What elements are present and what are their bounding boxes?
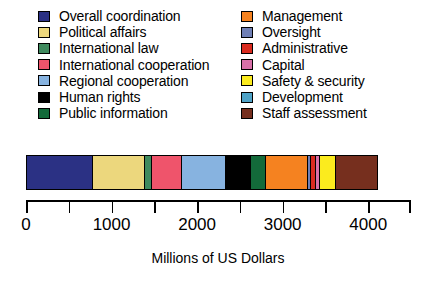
legend-item[interactable]: Regional cooperation (38, 73, 241, 89)
bar-segment[interactable] (251, 156, 266, 189)
legend-swatch-administrative (241, 43, 253, 54)
x-axis-tick-labels: 01000200030004000 (26, 215, 411, 237)
legend-item-label: Staff assessment (262, 106, 367, 120)
x-axis-tick-label: 1000 (93, 215, 131, 234)
legend-item[interactable]: Political affairs (38, 24, 241, 40)
bar-segment[interactable] (266, 156, 308, 189)
legend-swatch-staff-assessment (241, 108, 253, 119)
legend-swatch-human-rights (38, 92, 50, 103)
x-axis-tick-label: 0 (21, 215, 30, 234)
bar-segment[interactable] (152, 156, 182, 189)
x-axis-major-tick (112, 200, 114, 213)
legend-item-label: Public information (59, 106, 168, 120)
x-axis-tick-label: 4000 (349, 215, 387, 234)
x-axis-minor-tick (325, 200, 327, 213)
legend-item-label: Overall coordination (59, 9, 181, 23)
stacked-bar (26, 155, 378, 190)
legend-swatch-international-cooperation (38, 59, 50, 70)
legend-swatch-safety-security (241, 75, 253, 86)
legend-item-label: Capital (262, 58, 305, 72)
bar-segment[interactable] (336, 156, 377, 189)
bar-segment[interactable] (145, 156, 152, 189)
bar-segment[interactable] (182, 156, 226, 189)
x-axis-major-tick (197, 200, 199, 213)
legend-item[interactable]: Staff assessment (241, 105, 431, 121)
x-axis-minor-tick (409, 200, 411, 213)
legend-item-label: Oversight (262, 25, 321, 39)
x-axis (26, 200, 411, 214)
legend-item[interactable]: Management (241, 8, 431, 24)
x-axis-major-tick (26, 200, 28, 213)
legend-item[interactable]: Capital (241, 57, 431, 73)
x-axis-minor-tick (240, 200, 242, 213)
legend-swatch-oversight (241, 27, 253, 38)
legend-swatch-public-information (38, 108, 50, 119)
x-axis-major-tick (283, 200, 285, 213)
legend-item[interactable]: Overall coordination (38, 8, 241, 24)
legend-item-label: Regional cooperation (59, 74, 188, 88)
legend-item[interactable]: International cooperation (38, 57, 241, 73)
x-axis-major-tick (368, 200, 370, 213)
legend-item[interactable]: Development (241, 89, 431, 105)
x-axis-tick-label: 2000 (178, 215, 216, 234)
legend-item-label: Management (262, 9, 342, 23)
legend-item[interactable]: Human rights (38, 89, 241, 105)
legend-column-left: Overall coordinationPolitical affairsInt… (38, 8, 241, 128)
legend: Overall coordinationPolitical affairsInt… (0, 8, 436, 128)
legend-column-right: ManagementOversightAdministrativeCapital… (241, 8, 431, 128)
legend-swatch-capital (241, 59, 253, 70)
legend-item[interactable]: Safety & security (241, 73, 431, 89)
x-axis-tick-label: 3000 (264, 215, 302, 234)
x-axis-title: Millions of US Dollars (0, 250, 436, 266)
legend-swatch-development (241, 92, 253, 103)
legend-item-label: Human rights (59, 90, 140, 104)
legend-item-label: Political affairs (59, 25, 146, 39)
legend-item-label: Administrative (262, 41, 348, 55)
legend-swatch-overall-coordination (38, 11, 50, 22)
legend-item-label: Development (262, 90, 343, 104)
chart-area: 01000200030004000 Millions of US Dollars (0, 130, 436, 293)
legend-item-label: International law (59, 41, 158, 55)
x-axis-minor-tick (69, 200, 71, 213)
legend-item[interactable]: Oversight (241, 24, 431, 40)
legend-swatch-management (241, 11, 253, 22)
legend-swatch-international-law (38, 43, 50, 54)
bar-segment[interactable] (27, 156, 93, 189)
legend-item-label: International cooperation (59, 58, 209, 72)
legend-swatch-regional-cooperation (38, 75, 50, 86)
legend-item[interactable]: Public information (38, 105, 241, 121)
bar-segment[interactable] (226, 156, 251, 189)
legend-swatch-political-affairs (38, 27, 50, 38)
legend-item-label: Safety & security (262, 74, 365, 88)
legend-item[interactable]: Administrative (241, 40, 431, 56)
bar-segment[interactable] (93, 156, 145, 189)
figure-stacked-budget-bar: Overall coordinationPolitical affairsInt… (0, 0, 436, 293)
bar-segment[interactable] (320, 156, 336, 189)
legend-item[interactable]: International law (38, 40, 241, 56)
x-axis-line (26, 200, 411, 202)
x-axis-minor-tick (154, 200, 156, 213)
